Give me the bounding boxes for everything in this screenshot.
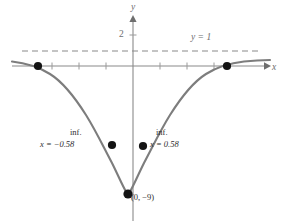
point-inflection-left: [108, 141, 116, 149]
graph-figure: y x 2 y = 1 inf. x = −0.58 inf. x = 0.58…: [0, 0, 282, 221]
point-x-intercept-left: [34, 62, 42, 70]
point-inflection-right: [139, 142, 147, 150]
y-axis-arrowhead: [129, 15, 136, 22]
function-curve: [12, 60, 270, 194]
point-minimum: [123, 189, 132, 198]
point-x-intercept-right: [223, 62, 231, 70]
x-axis-arrowhead: [264, 62, 271, 69]
graph-canvas: [0, 0, 282, 221]
